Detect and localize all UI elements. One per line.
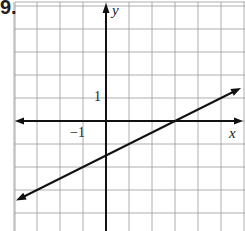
y-axis-label: y [112,2,119,19]
y-tick-label-1: 1 [94,89,101,105]
x-axis-label: x [229,125,236,142]
x-tick-label-neg1: −1 [70,125,85,141]
coordinate-graph [0,0,245,231]
problem-number: 9. [0,0,17,19]
grid-lines [14,2,245,231]
